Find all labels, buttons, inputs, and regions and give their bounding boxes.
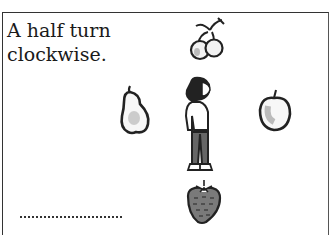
strawberry-icon — [184, 178, 224, 226]
girl-icon — [182, 76, 218, 178]
answer-blank[interactable] — [20, 216, 122, 218]
cherries-icon — [188, 16, 232, 60]
instruction-text: A half turn clockwise. — [7, 18, 137, 66]
apple-icon — [256, 88, 294, 134]
pear-icon — [118, 84, 152, 136]
instruction-line-1: A half turn — [7, 18, 137, 42]
instruction-line-2: clockwise. — [7, 42, 137, 66]
